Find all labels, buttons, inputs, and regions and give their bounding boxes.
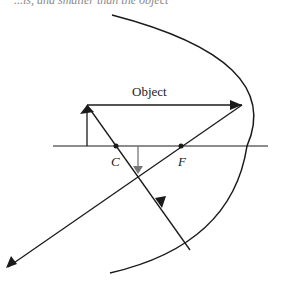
center-of-curvature-point bbox=[114, 144, 119, 149]
ray-through-center bbox=[87, 105, 190, 250]
object-label: Object bbox=[132, 84, 167, 99]
focus-label: F bbox=[177, 154, 187, 169]
reflected-ray-arrowhead-icon bbox=[6, 256, 17, 268]
concave-mirror-ray-diagram: Object C F bbox=[0, 0, 285, 291]
focal-point bbox=[179, 144, 184, 149]
reflected-ray-through-focus bbox=[8, 105, 242, 267]
center-label: C bbox=[111, 154, 120, 169]
